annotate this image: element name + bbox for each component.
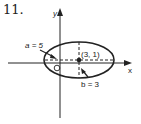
a-arrow-head-icon <box>50 54 57 59</box>
y-axis-arrow-icon <box>57 8 63 16</box>
y-axis-label: y <box>52 9 58 18</box>
angle-marker <box>54 65 60 71</box>
b-label: b = 3 <box>81 80 100 89</box>
a-label: a = 5 <box>25 41 44 50</box>
center-label: (3, 1) <box>81 50 100 59</box>
ellipse-diagram: x y (3, 1) a = 5 b = 3 <box>0 0 141 124</box>
x-axis-label: x <box>128 66 132 75</box>
